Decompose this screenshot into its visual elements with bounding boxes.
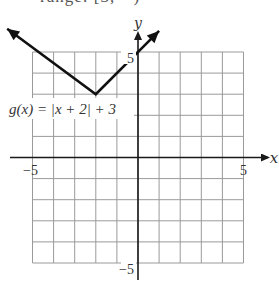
function-label-text: g(x) = |x + 2| + 3 (9, 101, 116, 118)
function-label: g(x) = |x + 2| + 3 (6, 98, 134, 119)
axes (10, 33, 268, 280)
y-tick-label: 5 (127, 51, 134, 66)
labels: xy−555−5g(x) = |x + 2| + 3 (6, 15, 279, 277)
function-graph: xy−555−5g(x) = |x + 2| + 3 (0, 0, 279, 281)
y-axis-label: y (133, 15, 143, 31)
function-curve (7, 29, 159, 94)
curve-arrowhead-icon (7, 29, 20, 41)
x-tick-label: −5 (23, 163, 38, 178)
x-tick-label: 5 (240, 163, 247, 178)
x-axis-label: x (270, 149, 279, 167)
y-tick-label: −5 (119, 262, 134, 277)
y-tick-label-group: −5 (119, 261, 136, 277)
y-tick-label-group: 5 (121, 50, 136, 66)
curve (7, 29, 159, 94)
